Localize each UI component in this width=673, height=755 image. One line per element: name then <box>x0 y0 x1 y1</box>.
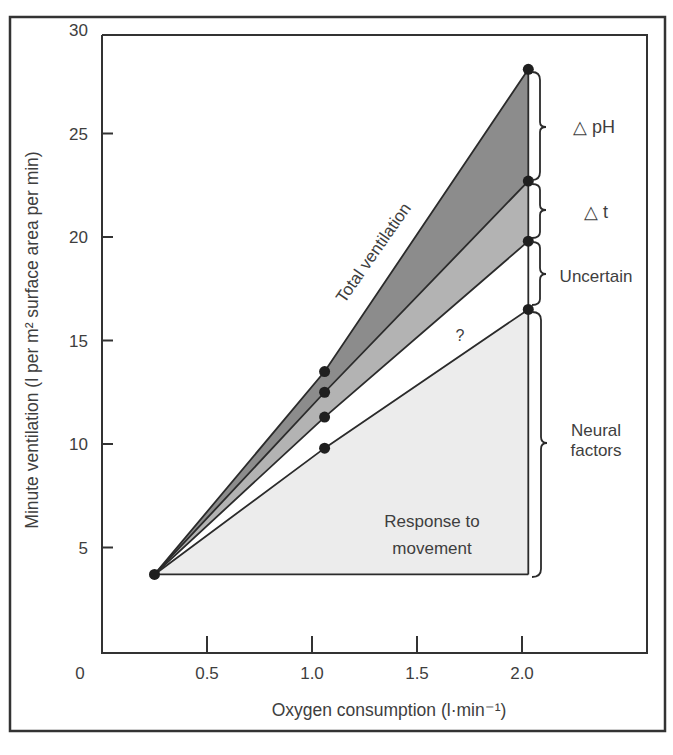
data-point <box>319 387 330 398</box>
svg-text:△ pH: △ pH <box>573 117 615 137</box>
x-axis-label: Oxygen consumption (l·min⁻¹) <box>272 700 507 720</box>
brace-uncertain <box>532 242 546 305</box>
delta-t-label: △ t <box>584 202 608 222</box>
y-tick-label: 10 <box>69 435 88 454</box>
regions <box>155 69 529 574</box>
data-point <box>149 569 160 580</box>
response-label-line2: movement <box>392 539 472 558</box>
brace-delta-ph <box>532 72 546 180</box>
braces <box>532 72 547 577</box>
x-axis-ticks: 0.51.01.52.0 <box>195 636 534 683</box>
y-axis-label: Minute ventilation (l per m² surface are… <box>22 151 42 528</box>
neural-label-line2: factors <box>570 441 621 460</box>
chart-figure: 0.51.01.52.0 51015202530 0 Oxygen consum… <box>0 0 673 755</box>
response-label-line1: Response to <box>384 512 479 531</box>
y-tick-label: 20 <box>69 228 88 247</box>
origin-label: 0 <box>75 664 84 683</box>
y-tick-label: 5 <box>79 539 88 558</box>
brace-neural-factors <box>532 312 547 577</box>
neural-label-line1: Neural <box>571 421 621 440</box>
delta-ph-label: △ pH <box>573 117 615 137</box>
y-axis-ticks: 51015202530 <box>69 21 113 558</box>
question-mark-label: ? <box>456 327 465 344</box>
x-tick-label: 0.5 <box>195 664 219 683</box>
y-tick-label: 30 <box>69 21 88 40</box>
uncertain-label: Uncertain <box>560 267 633 286</box>
y-tick-label: 25 <box>69 125 88 144</box>
data-point <box>523 176 534 187</box>
x-tick-label: 1.0 <box>300 664 324 683</box>
svg-text:△ t: △ t <box>584 202 608 222</box>
brace-delta-t <box>532 184 546 238</box>
data-point <box>523 64 534 75</box>
x-tick-label: 2.0 <box>510 664 534 683</box>
data-point <box>319 412 330 423</box>
y-tick-label: 15 <box>69 332 88 351</box>
x-tick-label: 1.5 <box>405 664 429 683</box>
data-point <box>319 366 330 377</box>
data-point <box>319 443 330 454</box>
